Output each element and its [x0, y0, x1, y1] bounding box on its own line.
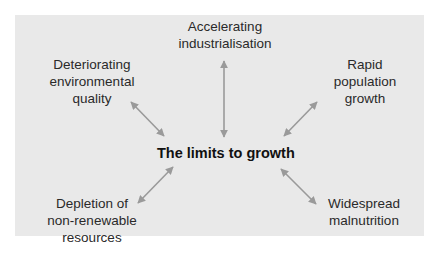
- center-node: The limits to growth: [157, 145, 295, 161]
- node-top: Accelerating industrialisation: [163, 18, 287, 52]
- node-top-left: Deteriorating environmental quality: [35, 56, 149, 107]
- arrow-top-right: [284, 102, 317, 136]
- node-bottom-left: Depletion of non-renewable resources: [35, 195, 149, 246]
- node-bottom-right: Widespread malnutrition: [311, 195, 417, 229]
- arrow-top-left: [131, 102, 164, 136]
- node-top-right: Rapid population growth: [318, 56, 412, 107]
